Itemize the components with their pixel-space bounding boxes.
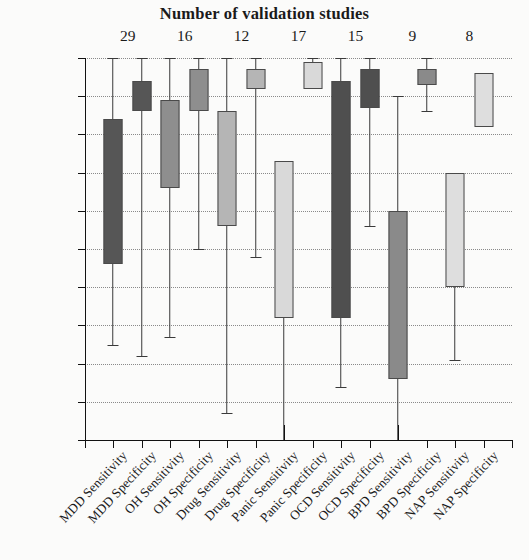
x-axis-tick-mark	[341, 440, 342, 448]
y-axis-tick-mark	[78, 287, 86, 288]
whisker-cap-high	[336, 58, 347, 59]
whisker-cap-high	[393, 96, 404, 97]
x-axis-tick-mark	[85, 440, 86, 448]
chart-title: Number of validation studies	[0, 4, 529, 24]
gridline	[85, 134, 512, 135]
y-axis-tick-mark	[78, 325, 86, 326]
whisker-cap-high	[165, 58, 176, 59]
y-axis-tick-mark	[78, 96, 86, 97]
group-count-label: 16	[177, 27, 193, 45]
y-axis-tick-mark	[78, 249, 86, 250]
whisker-cap-low	[364, 226, 375, 227]
box-rect[interactable]	[104, 119, 123, 264]
whisker-cap-high	[222, 58, 233, 59]
whisker-cap-high	[421, 58, 432, 59]
y-axis-tick-mark	[78, 58, 86, 59]
gridline	[85, 402, 512, 403]
y-axis-tick-mark	[78, 364, 86, 365]
y-axis-tick-mark	[78, 173, 86, 174]
box-rect[interactable]	[275, 161, 294, 318]
group-count-label: 8	[465, 27, 473, 45]
x-axis-tick-mark	[227, 440, 228, 448]
box-rect[interactable]	[161, 100, 180, 188]
box-rect[interactable]	[360, 69, 379, 107]
whisker-cap-high	[364, 58, 375, 59]
whisker-cap-low	[336, 387, 347, 388]
box-rect[interactable]	[389, 211, 408, 379]
box-rect[interactable]	[189, 69, 208, 111]
whisker-cap-low	[165, 337, 176, 338]
y-axis-tick-mark	[78, 134, 86, 135]
group-count-label: 12	[234, 27, 250, 45]
whisker-cap-low	[421, 111, 432, 112]
gridline	[85, 58, 512, 59]
box-plot-chart: Number of validation studies 29161217159…	[0, 0, 529, 560]
x-axis-tick-mark	[512, 440, 513, 448]
x-axis-tick-mark	[427, 440, 428, 448]
whisker-cap-low	[108, 345, 119, 346]
box-rect[interactable]	[246, 69, 265, 88]
whisker-cap-low	[450, 360, 461, 361]
x-axis-tick-mark	[370, 440, 371, 448]
box-rect[interactable]	[446, 173, 465, 288]
group-count-label: 29	[120, 27, 136, 45]
x-axis-tick-mark	[398, 425, 399, 440]
box-rect[interactable]	[303, 62, 322, 89]
whisker-cap-high	[193, 58, 204, 59]
whisker-cap-high	[108, 58, 119, 59]
gridline	[85, 287, 512, 288]
whisker-cap-low	[222, 413, 233, 414]
group-count-label: 15	[348, 27, 364, 45]
whisker-line	[426, 58, 427, 111]
x-axis-tick-mark	[142, 440, 143, 448]
gridline	[85, 325, 512, 326]
whisker-cap-low	[193, 249, 204, 250]
x-axis-tick-mark	[284, 425, 285, 440]
x-axis-tick-mark	[199, 440, 200, 448]
x-axis-tick-mark	[455, 440, 456, 448]
whisker-cap-high	[250, 58, 261, 59]
x-axis-tick-mark	[113, 440, 114, 448]
box-rect[interactable]	[474, 73, 493, 126]
box-rect[interactable]	[417, 69, 436, 84]
plot-area	[85, 58, 512, 440]
x-axis-label-row: MDD SensitivityMDD SpecificityOH Sensiti…	[0, 448, 529, 560]
x-axis-tick-mark	[484, 440, 485, 448]
box-rect[interactable]	[332, 81, 351, 318]
whisker-cap-high	[136, 58, 147, 59]
group-count-label: 9	[408, 27, 416, 45]
group-count-label: 17	[291, 27, 307, 45]
y-axis-tick-mark	[78, 211, 86, 212]
gridline	[85, 364, 512, 365]
x-axis-tick-mark	[256, 440, 257, 448]
x-axis-tick-mark	[313, 440, 314, 448]
x-axis	[85, 440, 512, 441]
x-axis-tick-mark	[170, 440, 171, 448]
whisker-cap-high	[307, 58, 318, 59]
whisker-cap-low	[136, 356, 147, 357]
whisker-cap-low	[250, 257, 261, 258]
box-rect[interactable]	[132, 81, 151, 112]
box-rect[interactable]	[218, 111, 237, 226]
group-count-row: 291612171598	[85, 27, 512, 49]
y-axis-tick-mark	[78, 402, 86, 403]
